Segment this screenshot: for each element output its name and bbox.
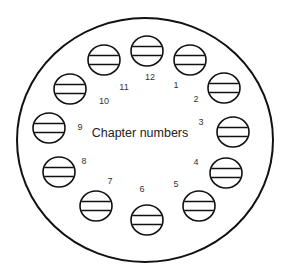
- chapter-number-label: 11: [119, 82, 128, 92]
- seat-circle: [183, 191, 215, 221]
- seat-7: [80, 191, 112, 221]
- chapter-number-label: 5: [173, 179, 178, 189]
- seat-5: [183, 191, 215, 221]
- chapter-number-label: 9: [77, 122, 82, 132]
- chapter-number-label: 7: [107, 176, 112, 186]
- seat-circle: [217, 117, 249, 147]
- chapter-number-label: 1: [173, 80, 178, 90]
- seat-11: [88, 45, 120, 75]
- seat-circle: [88, 45, 120, 75]
- seat-circle: [131, 205, 163, 235]
- seat-3: [217, 117, 249, 147]
- seat-10: [54, 74, 86, 104]
- seat-9: [33, 113, 65, 143]
- chapter-numbers-diagram: Chapter numbers 123456789101112: [0, 0, 290, 267]
- seat-circle: [174, 45, 206, 75]
- chapter-number-label: 4: [193, 157, 198, 167]
- chapter-number-label: 6: [139, 184, 144, 194]
- seat-8: [43, 157, 75, 187]
- seat-circle: [43, 157, 75, 187]
- seat-circle: [131, 36, 163, 66]
- diagram-title: Chapter numbers: [92, 126, 189, 140]
- chapter-number-label: 8: [81, 156, 86, 166]
- seat-circle: [208, 73, 240, 103]
- chapter-number-label: 3: [198, 117, 203, 127]
- chapter-number-label: 10: [99, 96, 109, 106]
- seat-12: [131, 36, 163, 66]
- seat-circle: [33, 113, 65, 143]
- seat-4: [210, 158, 242, 188]
- chapter-number-label: 2: [193, 94, 198, 104]
- seat-circle: [80, 191, 112, 221]
- seat-circle: [54, 74, 86, 104]
- seat-1: [174, 45, 206, 75]
- seat-6: [131, 205, 163, 235]
- seat-circle: [210, 158, 242, 188]
- chapter-number-label: 12: [145, 72, 155, 82]
- seat-2: [208, 73, 240, 103]
